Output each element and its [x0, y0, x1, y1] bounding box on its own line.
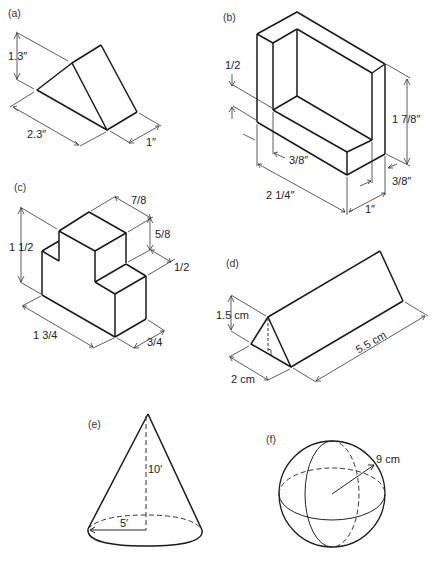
sphere-radius-dim: 9 cm: [376, 454, 400, 465]
sphere-drawing: [0, 0, 433, 561]
